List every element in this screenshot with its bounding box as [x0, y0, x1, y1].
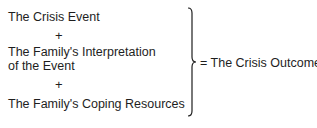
- term-crisis-event: The Crisis Event: [8, 10, 100, 24]
- result-expression: = The Crisis Outcome: [200, 56, 317, 70]
- term-family-interpretation-line1: The Family's Interpretation: [8, 45, 156, 59]
- term-coping-resources: The Family's Coping Resources: [8, 97, 185, 111]
- result-crisis-outcome: The Crisis Outcome: [211, 56, 317, 70]
- plus-sign-2: +: [55, 78, 63, 92]
- right-brace-icon: [186, 7, 200, 117]
- equals-sign: =: [200, 56, 207, 70]
- plus-sign-1: +: [55, 29, 63, 43]
- term-family-interpretation-line2: of the Event: [8, 59, 75, 73]
